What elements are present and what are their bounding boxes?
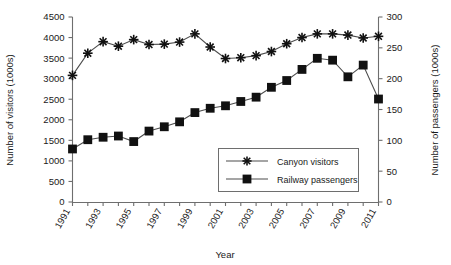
- legend-label-canyon-visitors: Canyon visitors: [277, 157, 339, 167]
- left-axis-ticks: 050010001500200025003000350040004500: [43, 11, 72, 207]
- tick-label: 0: [387, 196, 392, 207]
- data-point-square: [221, 101, 230, 110]
- legend-entry-railway-passengers: Railway passengers: [226, 175, 358, 185]
- data-point-star: [328, 29, 338, 39]
- data-point-square: [206, 104, 215, 113]
- tick-label: 3500: [43, 53, 64, 64]
- right-axis-title: Number of passengers (1000s): [429, 45, 440, 176]
- tick-label: 1991: [52, 207, 72, 231]
- data-point-star: [190, 29, 200, 39]
- tick-label: 250: [387, 42, 403, 53]
- x-axis-title: Year: [215, 249, 234, 260]
- data-point-square: [68, 145, 77, 154]
- data-point-square: [282, 76, 291, 85]
- tick-label: 1999: [175, 207, 195, 231]
- data-point-square: [298, 65, 307, 74]
- tick-label: 150: [387, 104, 403, 115]
- tick-label: 0: [59, 196, 64, 207]
- left-axis-title: Number of visitors (1000s): [4, 54, 15, 165]
- legend-star-icon: [242, 156, 251, 165]
- tick-label: 2005: [266, 207, 286, 231]
- data-point-star: [297, 33, 307, 43]
- tick-label: 1995: [113, 207, 133, 231]
- series-railway-passengers: [68, 54, 383, 153]
- data-point-star: [83, 48, 93, 58]
- data-point-star: [221, 54, 231, 64]
- tick-label: 50: [387, 166, 398, 177]
- data-point-star: [175, 37, 185, 47]
- data-point-star: [68, 71, 78, 81]
- data-point-star: [374, 32, 384, 42]
- data-point-star: [205, 42, 215, 52]
- data-point-square: [114, 132, 123, 141]
- data-point-square: [175, 117, 184, 126]
- data-point-star: [114, 41, 124, 51]
- tick-label: 200: [387, 73, 403, 84]
- data-point-star: [98, 37, 108, 47]
- data-point-star: [160, 39, 170, 49]
- data-point-star: [236, 53, 246, 63]
- tick-label: 2003: [236, 207, 256, 231]
- legend-square-icon: [243, 175, 252, 184]
- data-point-square: [83, 135, 92, 144]
- tick-label: 300: [387, 11, 403, 22]
- tick-label: 2009: [328, 207, 348, 231]
- data-point-star: [282, 39, 292, 49]
- right-axis-ticks: 050100150200250300: [379, 11, 403, 207]
- data-point-star: [358, 33, 368, 43]
- tick-label: 2007: [297, 207, 317, 231]
- tick-label: 500: [49, 176, 65, 187]
- data-point-star: [313, 29, 323, 39]
- data-point-square: [236, 97, 245, 106]
- data-point-star: [267, 47, 277, 57]
- data-point-square: [191, 108, 200, 117]
- data-point-square: [313, 54, 322, 63]
- tick-label: 2500: [43, 94, 64, 105]
- tick-label: 2001: [205, 207, 225, 231]
- data-point-star: [129, 35, 139, 45]
- chart-figure: 050010001500200025003000350040004500 050…: [0, 0, 451, 265]
- data-point-square: [344, 72, 353, 81]
- data-point-square: [328, 56, 337, 65]
- data-point-star: [343, 30, 353, 40]
- tick-label: 1997: [144, 207, 164, 231]
- series-canyon-visitors: [68, 29, 384, 80]
- data-point-square: [267, 83, 276, 92]
- tick-label: 1993: [83, 207, 103, 231]
- data-point-square: [252, 93, 261, 102]
- data-point-star: [251, 51, 261, 61]
- data-point-square: [160, 122, 169, 131]
- data-point-star: [144, 40, 154, 50]
- dual-axis-line-chart: 050010001500200025003000350040004500 050…: [0, 0, 451, 265]
- data-point-square: [374, 95, 383, 104]
- x-axis-ticks: 1991199319951997199920012003200520072009…: [52, 202, 378, 230]
- tick-label: 2000: [43, 114, 64, 125]
- data-point-square: [99, 133, 108, 142]
- data-point-square: [129, 137, 138, 146]
- data-point-square: [359, 61, 368, 70]
- legend-label-railway-passengers: Railway passengers: [277, 175, 358, 185]
- data-point-square: [145, 127, 154, 136]
- tick-label: 100: [387, 135, 403, 146]
- tick-label: 4000: [43, 32, 64, 43]
- legend-box: [219, 149, 359, 192]
- tick-label: 4500: [43, 11, 64, 22]
- chart-legend: Canyon visitors Railway passengers: [219, 149, 359, 192]
- tick-label: 3000: [43, 73, 64, 84]
- tick-label: 2011: [358, 207, 378, 230]
- tick-label: 1500: [43, 135, 64, 146]
- tick-label: 1000: [43, 155, 64, 166]
